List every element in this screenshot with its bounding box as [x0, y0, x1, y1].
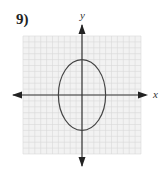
- coordinate-plane: x y: [0, 0, 163, 171]
- x-axis-label: x: [152, 88, 158, 100]
- y-axis-down-arrow-icon: [79, 157, 86, 167]
- x-axis-right-arrow-icon: [138, 92, 148, 99]
- y-axis-up-arrow-icon: [79, 24, 86, 34]
- x-axis-left-arrow-icon: [12, 92, 22, 99]
- y-axis-label: y: [79, 9, 85, 21]
